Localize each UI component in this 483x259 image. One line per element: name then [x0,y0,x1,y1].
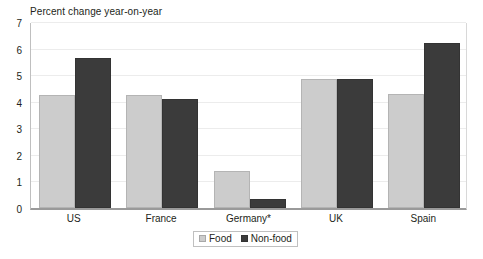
y-tick-label-5: 5 [16,71,22,82]
bar-group-germany [214,22,286,208]
bar-group-spain [388,22,460,208]
x-tick-label-spain: Spain [411,213,437,224]
y-tick-label-6: 6 [16,44,22,55]
x-axis-tick-labels: USFranceGermany*UKSpain [30,213,467,229]
bar-group-uk [301,22,373,208]
bar-spain-nonfood [424,43,460,208]
y-tick-label-4: 4 [16,97,22,108]
y-tick-label-7: 7 [16,18,22,29]
bar-us-food [39,95,75,208]
plot-area [30,23,467,210]
y-tick-label-2: 2 [16,150,22,161]
bar-chart: Percent change year-on-year 01234567 USF… [0,0,483,259]
bar-uk-food [301,79,337,208]
legend-item-nonfood[interactable]: Non-food [241,233,292,244]
legend-label-food: Food [209,233,232,244]
food-swatch-icon [199,235,206,242]
bar-spain-food [388,94,424,208]
x-tick-label-us: US [67,213,81,224]
legend-label-nonfood: Non-food [251,233,292,244]
x-tick-label-uk: UK [329,213,343,224]
chart-title: Percent change year-on-year [30,6,162,17]
legend-item-food[interactable]: Food [199,233,232,244]
bar-france-food [126,95,162,208]
bar-germany-food [214,171,250,208]
bar-uk-nonfood [337,79,373,208]
bar-us-nonfood [75,58,111,208]
bars-layer [31,23,466,209]
y-axis-tick-labels: 01234567 [0,23,26,210]
x-tick-label-france: France [146,213,177,224]
bar-france-nonfood [162,99,198,208]
chart-legend: FoodNon-food [193,231,298,247]
bar-group-us [39,22,111,208]
x-tick-label-germany: Germany* [226,213,271,224]
y-tick-label-0: 0 [16,204,22,215]
bar-germany-nonfood [250,199,286,208]
nonfood-swatch-icon [241,235,248,242]
bar-group-france [126,22,198,208]
y-tick-label-3: 3 [16,124,22,135]
y-tick-label-1: 1 [16,177,22,188]
